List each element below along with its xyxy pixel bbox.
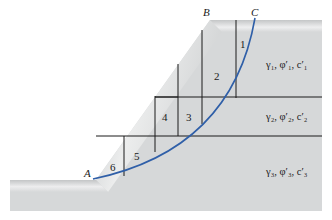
toe-bevel (10, 180, 108, 192)
slice-number-1: 1 (240, 38, 246, 50)
slice-number-2: 2 (214, 70, 220, 82)
slice-number-4: 4 (162, 111, 168, 123)
slope-diagram: A B C 1 2 3 4 5 6 γ₁, φ′₁, c′₁ γ₂, φ′₂, … (0, 0, 332, 220)
layer-2-properties: γ₂, φ′₂, c′₂ (265, 111, 308, 122)
slice-number-3: 3 (186, 111, 192, 123)
slice-number-5: 5 (134, 150, 140, 162)
crest-bevel (210, 20, 322, 32)
point-label-a: A (83, 167, 91, 179)
layer-3-properties: γ₃, φ′₃, c′₃ (265, 166, 308, 177)
slice-number-6: 6 (110, 161, 116, 173)
layer-1-properties: γ₁, φ′₁, c′₁ (265, 59, 307, 70)
point-label-c: C (251, 6, 259, 18)
point-label-b: B (203, 6, 210, 18)
